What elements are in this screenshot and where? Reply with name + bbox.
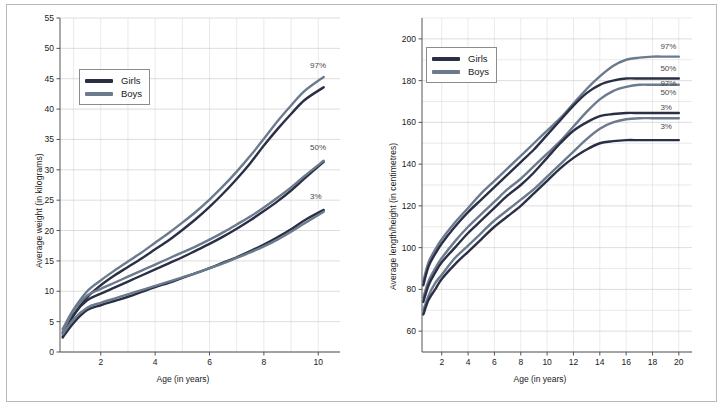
legend-label-boys: Boys [121,87,142,100]
x-tick-label: 18 [648,357,658,367]
percentile-label: 97% [310,61,326,70]
x-tick-label: 8 [262,357,267,367]
x-tick-label: 14 [595,357,605,367]
legend-row-boys: Boys [85,87,142,100]
legend-swatch-boys [432,70,460,74]
y-tick-label: 45 [45,74,55,84]
y-tick-label: 80 [407,284,417,294]
percentile-label: 3% [310,192,322,201]
x-tick-label: 16 [621,357,631,367]
height-chart-panel: 6080100120140160180200246810121416182097… [370,0,710,398]
y-tick-label: 55 [45,13,55,23]
y-tick-label: 10 [45,286,55,296]
y-tick-label: 120 [402,201,416,211]
curve-girls-97- [423,78,679,285]
y-tick-label: 100 [402,243,416,253]
x-tick-label: 4 [466,357,471,367]
curve-boys-50- [423,85,679,298]
percentile-label: 97% [660,79,676,88]
legend-label-girls: Girls [468,52,488,65]
legend-label-girls: Girls [121,74,141,87]
y-axis-ticks: 0510152025303540455055 [45,13,60,357]
curve-girls-97- [63,87,324,336]
legend-row-boys: Boys [432,65,489,78]
height-chart-svg: 6080100120140160180200246810121416182097… [370,0,710,398]
percentile-label: 50% [310,143,326,152]
x-axis-ticks: 2468101214161820 [439,352,683,367]
chart-page: 051015202530354045505524681097%50%3% Ave… [0,0,723,410]
legend-swatch-girls [432,57,460,61]
x-tick-label: 6 [207,357,212,367]
curve-girls-3- [423,140,679,314]
y-tick-label: 40 [45,104,55,114]
data-curves [63,77,324,338]
x-tick-label: 2 [439,357,444,367]
legend-row-girls: Girls [432,52,489,65]
data-curves [423,57,679,315]
legend-swatch-boys [85,92,113,96]
weight-chart-legend: Girls Boys [79,69,150,105]
weight-y-axis-label: Average weight (in kilograms) [34,153,44,268]
y-tick-label: 50 [45,43,55,53]
legend-row-girls: Girls [85,74,142,87]
y-tick-label: 0 [49,347,54,357]
height-chart-legend: Girls Boys [426,47,497,83]
y-tick-label: 35 [45,134,55,144]
weight-chart-svg: 051015202530354045505524681097%50%3% [8,0,358,398]
y-axis-ticks: 6080100120140160180200 [402,34,422,336]
legend-label-boys: Boys [468,65,489,78]
y-tick-label: 200 [402,34,416,44]
percentile-label: 97% [660,42,676,51]
weight-chart-panel: 051015202530354045505524681097%50%3% Ave… [8,0,358,398]
height-y-axis-label: Average length/height (in centimetres) [388,143,398,290]
curve-boys-3- [63,212,324,335]
x-tick-label: 10 [314,357,324,367]
y-tick-label: 15 [45,256,55,266]
weight-x-axis-label: Age (in years) [8,374,358,384]
y-tick-label: 140 [402,159,416,169]
height-x-axis-label: Age (in years) [370,374,710,384]
y-tick-label: 180 [402,76,416,86]
percentile-label: 50% [660,88,676,97]
y-tick-label: 5 [49,317,54,327]
x-tick-label: 8 [518,357,523,367]
x-tick-label: 12 [569,357,579,367]
percentile-label: 3% [660,103,672,112]
x-axis-ticks: 246810 [98,352,323,367]
y-tick-label: 60 [407,326,417,336]
y-tick-label: 25 [45,195,55,205]
y-tick-label: 160 [402,117,416,127]
legend-swatch-girls [85,79,113,83]
x-tick-label: 4 [153,357,158,367]
y-tick-label: 30 [45,165,55,175]
x-tick-label: 2 [98,357,103,367]
x-tick-label: 6 [492,357,497,367]
y-tick-label: 20 [45,226,55,236]
percentile-label: 3% [660,122,672,131]
percentile-label: 50% [660,64,676,73]
x-tick-label: 10 [542,357,552,367]
x-tick-label: 20 [674,357,684,367]
